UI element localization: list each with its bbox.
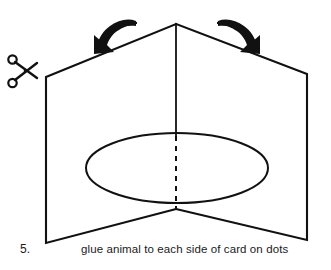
card-right-panel-outline (176, 24, 307, 240)
folded-card-diagram (0, 0, 331, 270)
illustration-canvas: 5. glue animal to each side of card on d… (0, 0, 331, 270)
glue-instruction-label: glue animal to each side of card on dots (81, 243, 288, 255)
scissors-icon (8, 55, 37, 87)
step-number-label: 5. (20, 242, 30, 256)
